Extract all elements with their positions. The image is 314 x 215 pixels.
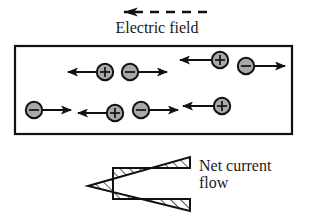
net-current-arrow [88, 157, 190, 211]
net-current-flow-label: Net current flow [199, 157, 271, 192]
electric-field-label: Electric field [0, 19, 314, 36]
net-current-arrow-group [88, 157, 190, 211]
electric-field-current-diagram: Electric field Net current flow [0, 0, 314, 215]
